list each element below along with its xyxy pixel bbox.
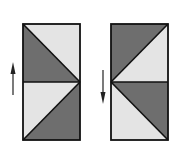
diagram-canvas	[0, 0, 176, 148]
up-arrow-icon	[11, 62, 16, 95]
left-panel	[11, 24, 81, 140]
down-arrow-icon	[101, 70, 106, 104]
right-panel	[101, 24, 169, 140]
